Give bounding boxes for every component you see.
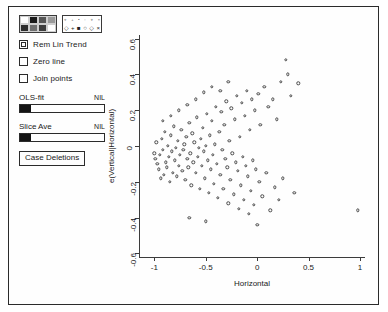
symbol-small-4-icon[interactable]: ⋄ [90, 16, 93, 24]
data-point [214, 105, 217, 108]
checkbox-zero-line[interactable]: Zero line [19, 56, 105, 67]
palette-row: ⋄+▪◦⋄× ◇+■○◇× [19, 15, 105, 33]
color-swatch-3[interactable] [47, 16, 56, 24]
x-axis-title: Horizontal [234, 279, 270, 288]
checkbox-rem-lin-trend[interactable]: Rem Lin Trend [19, 39, 105, 50]
data-point [185, 135, 188, 138]
symbol-small-1-icon[interactable]: + [71, 16, 73, 24]
data-point [177, 108, 180, 111]
data-point [255, 223, 258, 226]
data-point [241, 155, 244, 158]
data-point [232, 193, 235, 196]
slider-track[interactable] [19, 133, 105, 142]
data-point [204, 219, 207, 222]
symbol-small-2-icon[interactable]: ▪ [78, 16, 79, 24]
data-point [219, 110, 222, 113]
slider-thumb[interactable] [20, 134, 31, 141]
data-point [196, 155, 199, 158]
data-point [225, 100, 228, 103]
data-point [202, 150, 205, 153]
data-point [164, 160, 167, 163]
y-tick-label: 0.6 [128, 39, 137, 50]
data-point [259, 123, 262, 126]
data-point [224, 157, 227, 160]
data-point [170, 150, 173, 153]
data-point [178, 153, 181, 156]
color-swatch-2[interactable] [38, 16, 47, 24]
data-point [188, 121, 191, 124]
color-swatch-5[interactable] [29, 24, 38, 32]
data-point [194, 171, 197, 174]
data-point [217, 130, 220, 133]
slider-track[interactable] [19, 104, 105, 113]
data-point [292, 191, 295, 194]
symbol-row-small[interactable]: ⋄+▪◦⋄× [64, 16, 100, 24]
data-point [161, 119, 164, 122]
data-point [250, 98, 253, 101]
slider-thumb[interactable] [20, 105, 31, 112]
x-tick [360, 257, 361, 261]
checkbox-join-points[interactable]: Join points [19, 73, 105, 84]
data-point [181, 148, 184, 151]
symbol-row-large[interactable]: ◇+■○◇× [64, 24, 100, 32]
data-point [186, 157, 189, 160]
data-point [267, 105, 270, 108]
data-point [199, 137, 202, 140]
symbol-small-3-icon[interactable]: ◦ [84, 16, 85, 24]
symbol-large-4-icon[interactable]: ◇ [89, 24, 94, 32]
data-point [245, 89, 248, 92]
data-point [168, 180, 171, 183]
symbol-large-3-icon[interactable]: ○ [83, 24, 87, 32]
data-point [188, 216, 191, 219]
color-swatch-7[interactable] [47, 24, 56, 32]
data-point [159, 177, 162, 180]
color-swatch-6[interactable] [38, 24, 47, 32]
data-point [223, 123, 226, 126]
x-tick-label: 0.5 [303, 263, 314, 272]
x-tick [154, 257, 155, 261]
data-point [286, 73, 289, 76]
data-point [190, 184, 193, 187]
data-point [251, 159, 254, 162]
data-point [239, 184, 242, 187]
symbol-large-5-icon[interactable]: × [96, 24, 100, 32]
data-point [253, 108, 256, 111]
data-point [167, 155, 170, 158]
color-swatch-4[interactable] [20, 24, 29, 32]
data-point [271, 98, 274, 101]
plot-symbol-palette[interactable]: ⋄+▪◦⋄× ◇+■○◇× [62, 15, 102, 33]
data-point [230, 107, 233, 110]
symbol-small-0-icon[interactable]: ⋄ [64, 16, 67, 24]
color-swatch-0[interactable] [20, 16, 29, 24]
symbol-large-1-icon[interactable]: + [71, 24, 75, 32]
case-deletions-button[interactable]: Case Deletions [19, 151, 85, 166]
data-point [238, 135, 241, 138]
data-point [248, 128, 251, 131]
data-point [157, 168, 160, 171]
symbol-small-5-icon[interactable]: × [98, 16, 100, 24]
checkbox-unchecked-icon[interactable] [19, 74, 28, 83]
checkbox-unchecked-icon[interactable] [19, 57, 28, 66]
checkbox-label: Rem Lin Trend [33, 40, 87, 49]
checkbox-checked-icon[interactable] [19, 40, 28, 49]
data-point [244, 164, 247, 167]
data-point [289, 94, 292, 97]
slider-ols-fit[interactable]: OLS-fit NIL [19, 93, 105, 113]
plot-area[interactable]: -0.6-0.4-0.200.20.40.6 -1-0.500.51 e(Ver… [139, 35, 365, 257]
data-point [179, 128, 182, 131]
symbol-large-0-icon[interactable]: ◇ [64, 24, 69, 32]
color-shade-palette[interactable] [19, 15, 57, 33]
symbol-large-2-icon[interactable]: ■ [77, 24, 81, 32]
data-point [162, 173, 165, 176]
data-point [249, 189, 252, 192]
slider-slice-ave[interactable]: Slice Ave NIL [19, 122, 105, 142]
data-point [160, 137, 163, 140]
data-point [252, 203, 255, 206]
data-point [213, 143, 216, 146]
slider-label: Slice Ave [19, 122, 52, 131]
y-tick-label: 0.4 [128, 74, 137, 85]
data-point [297, 82, 300, 85]
y-axis-line [139, 35, 140, 257]
slider-value: NIL [94, 94, 105, 101]
color-swatch-1[interactable] [29, 16, 38, 24]
